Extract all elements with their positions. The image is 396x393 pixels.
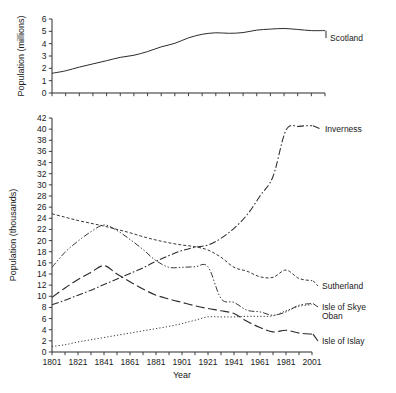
y-tick-label: 26 <box>37 202 47 212</box>
series-label-oban: Oban <box>322 311 343 321</box>
series-label-inverness: Inverness <box>325 124 362 134</box>
chart-canvas: 0123456Population (millions)Scotland0246… <box>0 0 396 393</box>
x-tick-label: 1961 <box>251 357 270 367</box>
y-tick-label: 4 <box>42 39 47 49</box>
y-tick-label: 8 <box>42 302 47 312</box>
y-tick-label: 32 <box>37 169 47 179</box>
x-axis-top <box>52 93 325 96</box>
y-axis-title-bottom: Population (thousands) <box>8 189 18 282</box>
series-line-oban <box>52 305 312 347</box>
y-tick-label: 30 <box>37 180 47 190</box>
series-label-sutherland: Sutherland <box>322 281 363 291</box>
y-tick-label: 6 <box>42 314 47 324</box>
series-label-isle-of-islay: Isle of Islay <box>322 336 365 346</box>
series-leader-sutherland <box>313 281 318 286</box>
x-tick-label: 1801 <box>43 357 62 367</box>
series-leader-inverness <box>313 126 321 129</box>
x-tick-label: 1901 <box>173 357 192 367</box>
y-tick-label: 1 <box>42 76 47 86</box>
y-tick-label: 24 <box>37 213 47 223</box>
x-tick-label: 2001 <box>303 357 322 367</box>
y-axis-top: 0123456 <box>42 14 52 98</box>
y-tick-label: 10 <box>37 291 47 301</box>
y-tick-label: 18 <box>37 247 47 257</box>
series-leader-isle-of-skye <box>313 304 318 307</box>
series-labels-bottom: InvernessSutherlandIsle of SkyeObanIsle … <box>313 124 366 346</box>
y-tick-label: 16 <box>37 258 47 268</box>
chart-panel-bottom: 0246810121416182022242628303234363840421… <box>8 113 366 380</box>
y-tick-label: 0 <box>42 347 47 357</box>
y-tick-label: 6 <box>42 14 47 24</box>
axis-lines-top <box>52 19 325 93</box>
x-tick-label: 1921 <box>199 357 218 367</box>
y-tick-label: 3 <box>42 51 47 61</box>
y-tick-label: 22 <box>37 224 47 234</box>
y-tick-label: 34 <box>37 158 47 168</box>
y-tick-label: 2 <box>42 336 47 346</box>
y-tick-label: 20 <box>37 236 47 246</box>
x-tick-label: 1981 <box>277 357 296 367</box>
y-tick-label: 40 <box>37 124 47 134</box>
y-tick-label: 0 <box>42 88 47 98</box>
x-axis-title: Year <box>173 370 191 380</box>
y-axis-bottom: 024681012141618202224262830323436384042 <box>37 113 52 357</box>
series-label-scotland: Scotland <box>330 33 363 43</box>
x-tick-label: 1821 <box>69 357 88 367</box>
y-tick-label: 5 <box>42 26 47 36</box>
series-group-bottom <box>52 125 312 346</box>
y-tick-label: 36 <box>37 146 47 156</box>
y-tick-label: 2 <box>42 63 47 73</box>
x-tick-label: 1941 <box>225 357 244 367</box>
y-tick-label: 42 <box>37 113 47 123</box>
series-line-scotland <box>52 28 325 73</box>
axis-lines-bottom <box>52 118 312 352</box>
x-axis-bottom: 1801182118411861188119011921194119611981… <box>43 352 322 367</box>
series-group-top <box>52 28 325 73</box>
y-tick-label: 12 <box>37 280 47 290</box>
series-leader-isle-of-islay <box>313 334 318 341</box>
chart-panel-top: 0123456Population (millions)Scotland <box>16 14 363 98</box>
y-tick-label: 38 <box>37 135 47 145</box>
series-line-isle-of-islay <box>52 266 312 335</box>
x-tick-label: 1861 <box>121 357 140 367</box>
y-tick-label: 28 <box>37 191 47 201</box>
y-axis-title-top: Population (millions) <box>16 15 26 96</box>
y-tick-label: 14 <box>37 269 47 279</box>
series-labels-top: Scotland <box>326 31 363 43</box>
series-line-isle-of-skye <box>52 225 312 315</box>
series-line-sutherland <box>52 214 312 281</box>
x-tick-label: 1881 <box>147 357 166 367</box>
y-tick-label: 4 <box>42 325 47 335</box>
population-charts-figure: 0123456Population (millions)Scotland0246… <box>0 0 396 393</box>
x-tick-label: 1841 <box>95 357 114 367</box>
